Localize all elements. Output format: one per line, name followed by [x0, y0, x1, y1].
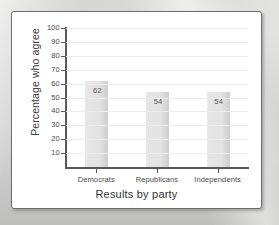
gridline	[66, 139, 248, 140]
gridline	[66, 111, 248, 112]
y-tick-mark	[61, 98, 65, 99]
y-axis-title: Percentage who agree	[29, 18, 41, 146]
gridline	[66, 98, 248, 99]
y-tick-label: 10	[18, 149, 60, 157]
y-tick-mark	[61, 42, 65, 43]
y-tick-mark	[61, 125, 65, 126]
gridline	[66, 28, 248, 29]
x-tick-mark	[157, 169, 158, 173]
gridline	[66, 125, 248, 126]
x-category-label: Independents	[187, 175, 248, 184]
gridline	[66, 84, 248, 85]
x-category-label: Republicans	[127, 175, 188, 184]
y-tick-mark	[61, 84, 65, 85]
y-tick-mark	[61, 111, 65, 112]
y-tick-mark	[61, 139, 65, 140]
bar: 54	[146, 92, 169, 167]
gridline	[66, 56, 248, 57]
gridline	[66, 153, 248, 154]
plot-area: 625454	[66, 28, 248, 167]
bar-value-label: 62	[86, 86, 108, 95]
y-tick-mark	[61, 28, 65, 29]
corner-mark: ·	[234, 172, 236, 178]
y-tick-mark	[61, 70, 65, 71]
y-tick-mark	[61, 153, 65, 154]
x-axis-title: Results by party	[12, 188, 261, 200]
y-tick-mark	[61, 56, 65, 57]
bar: 54	[207, 92, 230, 167]
y-tick-label-wrap: 10	[12, 149, 60, 157]
gridline	[66, 70, 248, 71]
x-category-label: Democrats	[66, 175, 127, 184]
x-tick-mark	[96, 169, 97, 173]
gridline	[66, 42, 248, 43]
x-tick-mark	[218, 169, 219, 173]
chart-panel: 100908070605040302010 625454 DemocratsRe…	[11, 11, 262, 209]
